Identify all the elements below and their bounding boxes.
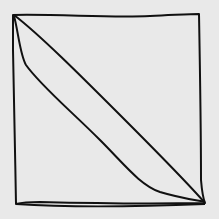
outer-square [13, 14, 205, 204]
bottom-double-stroke [16, 204, 205, 206]
sketch-svg [0, 0, 219, 219]
drawing-canvas: Hand-drawn square with a narrow diagonal… [0, 0, 219, 219]
diagonal-lower [14, 16, 205, 202]
diagonal-upper [14, 15, 205, 203]
